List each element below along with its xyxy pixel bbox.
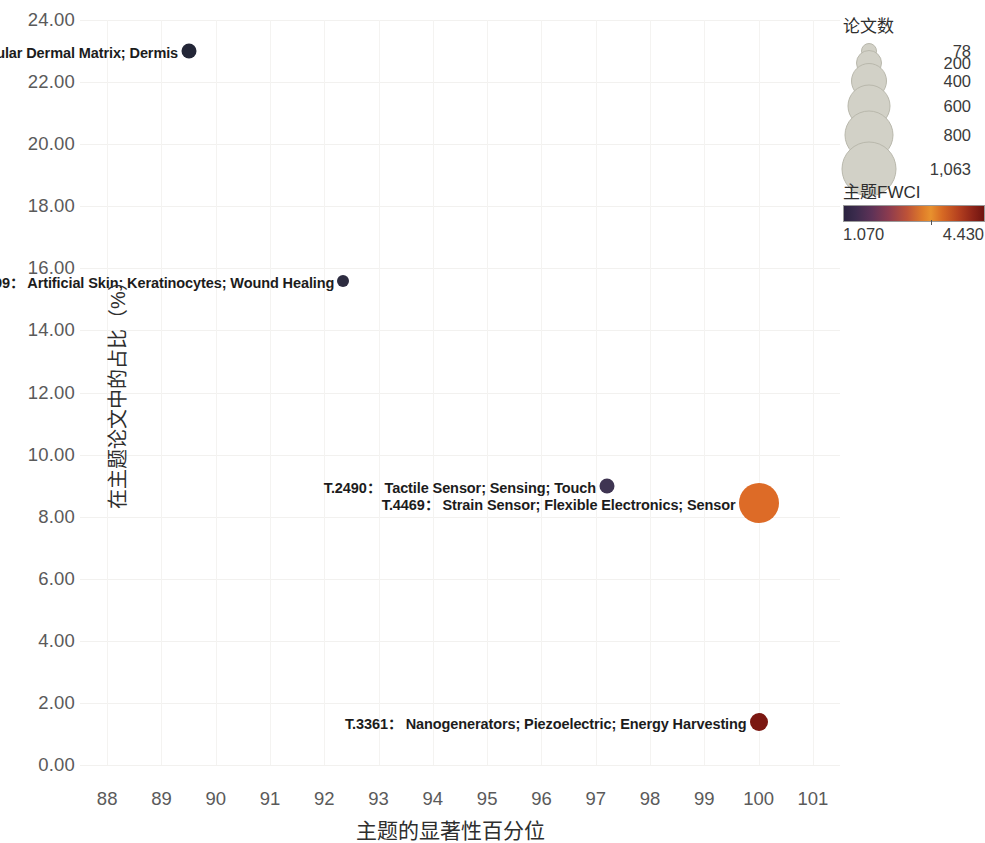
gridline-horizontal — [80, 20, 840, 21]
gridline-vertical — [216, 20, 217, 765]
y-axis-title: 在主题论文中的占比（%） — [102, 271, 131, 509]
gridline-vertical — [813, 20, 814, 765]
y-axis-tick-label: 2.00 — [5, 692, 75, 714]
gridline-horizontal — [80, 268, 840, 269]
gridline-horizontal — [80, 641, 840, 642]
x-axis-tick-label: 100 — [743, 788, 774, 810]
gridline-vertical — [596, 20, 597, 765]
data-point-bubble[interactable] — [599, 478, 614, 493]
legend-size-label: 200 — [901, 53, 971, 72]
x-axis-tick-label: 98 — [640, 788, 661, 810]
plot-area: T.10068： Burns; Acellular Dermal Matrix;… — [80, 20, 840, 765]
gridline-horizontal — [80, 579, 840, 580]
colorbar-min-label: 1.070 — [843, 225, 884, 244]
data-point-label: T.4469： Strain Sensor; Flexible Electron… — [382, 492, 736, 513]
data-point-bubble[interactable] — [739, 483, 779, 523]
x-axis-tick-label: 94 — [423, 788, 444, 810]
legend-colorbar-title: 主题FWCI — [843, 178, 920, 203]
x-axis-tick-label: 97 — [585, 788, 606, 810]
gridline-horizontal — [80, 517, 840, 518]
legend-size-title: 论文数 — [843, 12, 894, 37]
gridline-vertical — [433, 20, 434, 765]
y-axis-title-container: 在主题论文中的占比（%） — [0, 180, 34, 600]
gridline-horizontal — [80, 765, 840, 766]
legend-size: 论文数 782004006008001,063 — [843, 12, 984, 172]
gridline-vertical — [324, 20, 325, 765]
x-axis-tick-label: 96 — [531, 788, 552, 810]
x-axis-tick-label: 95 — [477, 788, 498, 810]
colorbar-gradient — [843, 205, 985, 222]
gridline-vertical — [704, 20, 705, 765]
data-point-bubble[interactable] — [750, 713, 768, 731]
gridline-horizontal — [80, 144, 840, 145]
gridline-horizontal — [80, 703, 840, 704]
data-point-bubble[interactable] — [181, 44, 196, 59]
gridline-horizontal — [80, 206, 840, 207]
x-axis-tick-label: 88 — [97, 788, 118, 810]
x-axis-tick-label: 92 — [314, 788, 335, 810]
data-point-label: T.3361： Nanogenerators; Piezoelectric; E… — [345, 712, 747, 733]
data-point-bubble[interactable] — [337, 275, 349, 287]
gridline-vertical — [487, 20, 488, 765]
gridline-vertical — [270, 20, 271, 765]
x-axis-tick-label: 91 — [260, 788, 281, 810]
colorbar-max-label: 4.430 — [943, 225, 984, 244]
y-axis-tick-label: 4.00 — [5, 630, 75, 652]
gridline-vertical — [759, 20, 760, 765]
x-axis-title: 主题的显著性百分位 — [0, 814, 900, 843]
gridline-vertical — [541, 20, 542, 765]
gridline-horizontal — [80, 455, 840, 456]
colorbar-tick-marker — [931, 220, 932, 225]
x-axis-tick-label: 101 — [797, 788, 828, 810]
gridline-vertical — [650, 20, 651, 765]
legend-size-label: 600 — [901, 96, 971, 115]
legend-size-label: 1,063 — [901, 159, 971, 178]
x-axis-tick-label: 89 — [151, 788, 172, 810]
gridline-vertical — [161, 20, 162, 765]
x-axis-tick-label: 90 — [205, 788, 226, 810]
x-axis-tick-label: 93 — [368, 788, 389, 810]
gridline-horizontal — [80, 393, 840, 394]
x-axis-tick-label: 99 — [694, 788, 715, 810]
x-axis-ticks: 888990919293949596979899100101 — [80, 788, 840, 816]
y-axis-tick-label: 0.00 — [5, 754, 75, 776]
y-axis-tick-label: 24.00 — [5, 9, 75, 31]
gridline-vertical — [379, 20, 380, 765]
y-axis-tick-label: 22.00 — [5, 71, 75, 93]
legend-colorbar: 主题FWCI 1.070 4.430 — [843, 178, 984, 248]
gridline-horizontal — [80, 330, 840, 331]
y-axis-tick-label: 20.00 — [5, 133, 75, 155]
gridline-horizontal — [80, 82, 840, 83]
legend-size-label: 400 — [901, 72, 971, 91]
legend-size-label: 800 — [901, 126, 971, 145]
